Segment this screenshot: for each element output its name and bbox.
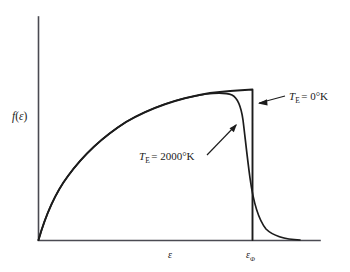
- curve-2000-kelvin: [39, 93, 301, 240]
- annotation-2000-kelvin-value: = 2000°K: [151, 150, 194, 162]
- annotation-2000-kelvin-sub: E: [145, 156, 150, 165]
- figure-container: f(ε) ε εΦ TE= 0°K TE= 2000°K: [0, 0, 350, 272]
- pointer-zero-kelvin: [258, 96, 285, 105]
- annotation-zero-kelvin: TE= 0°K: [289, 90, 328, 105]
- x-tick-phi-sub: Φ: [250, 255, 255, 262]
- y-axis-label: f(ε): [12, 110, 28, 123]
- x-tick-label-epsilon: ε: [168, 249, 172, 260]
- y-axis-label-close: ): [24, 110, 28, 123]
- x-tick-label-epsilon-phi: εΦ: [246, 249, 255, 262]
- energy-distribution-chart: f(ε) ε εΦ TE= 0°K TE= 2000°K: [0, 0, 350, 272]
- pointer-2000-kelvin: [207, 124, 237, 155]
- annotation-2000-kelvin: TE= 2000°K: [139, 150, 195, 165]
- annotation-zero-kelvin-value: = 0°K: [301, 90, 328, 102]
- annotation-zero-kelvin-sub: E: [295, 96, 300, 105]
